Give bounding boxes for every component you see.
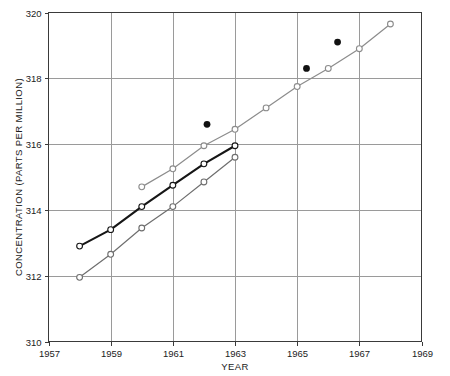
- y-tick-label: 310: [26, 337, 42, 348]
- y-tick-label: 320: [26, 8, 42, 19]
- data-point-open: [170, 204, 176, 210]
- data-point-open: [325, 66, 331, 72]
- data-point-open: [388, 21, 394, 27]
- data-point-filled: [303, 65, 310, 72]
- x-tick-label: 1965: [287, 348, 308, 359]
- x-tick-label: 1967: [349, 348, 370, 359]
- x-tick-label: 1963: [225, 348, 246, 359]
- tick-marks: [45, 14, 423, 346]
- co2-concentration-line-chart: 1957195919611963196519671969310312314316…: [0, 0, 450, 376]
- series-line: [80, 157, 235, 277]
- data-point-open: [77, 243, 83, 249]
- data-point-open: [108, 251, 114, 257]
- x-axis-title: YEAR: [221, 361, 248, 372]
- data-point-open: [139, 225, 145, 231]
- data-point-open: [108, 227, 114, 233]
- data-point-open: [201, 161, 207, 167]
- y-tick-label: 316: [26, 139, 42, 150]
- x-tick-label: 1969: [412, 348, 433, 359]
- series-upper-gray-series: [139, 21, 393, 190]
- tick-labels: 1957195919611963196519671969310312314316…: [26, 8, 433, 359]
- y-tick-label: 314: [26, 205, 42, 216]
- series-line: [80, 146, 235, 246]
- data-point-open: [232, 154, 238, 160]
- data-point-filled: [204, 121, 211, 128]
- y-axis-title: CONCENTRATION (PARTS PER MILLION): [13, 78, 24, 276]
- data-point-open: [232, 126, 238, 132]
- data-point-filled: [334, 39, 341, 46]
- x-tick-label: 1959: [101, 348, 122, 359]
- series-filled-dot-series: [204, 39, 341, 128]
- data-point-open: [170, 182, 176, 188]
- data-point-open: [139, 204, 145, 210]
- y-tick-label: 312: [26, 271, 42, 282]
- data-point-open: [232, 143, 238, 149]
- grid-lines: [49, 13, 422, 342]
- data-point-open: [356, 46, 362, 52]
- x-tick-label: 1957: [39, 348, 60, 359]
- chart-container: 1957195919611963196519671969310312314316…: [0, 0, 450, 376]
- data-point-open: [294, 84, 300, 90]
- data-point-open: [201, 143, 207, 149]
- data-point-open: [263, 105, 269, 111]
- x-tick-label: 1961: [163, 348, 184, 359]
- y-tick-label: 318: [26, 73, 42, 84]
- series-black-series: [77, 143, 238, 249]
- data-point-open: [170, 166, 176, 172]
- data-point-open: [139, 184, 145, 190]
- series-layer: [77, 21, 394, 280]
- data-point-open: [77, 274, 83, 280]
- data-point-open: [201, 179, 207, 185]
- series-lower-gray-series: [77, 154, 238, 280]
